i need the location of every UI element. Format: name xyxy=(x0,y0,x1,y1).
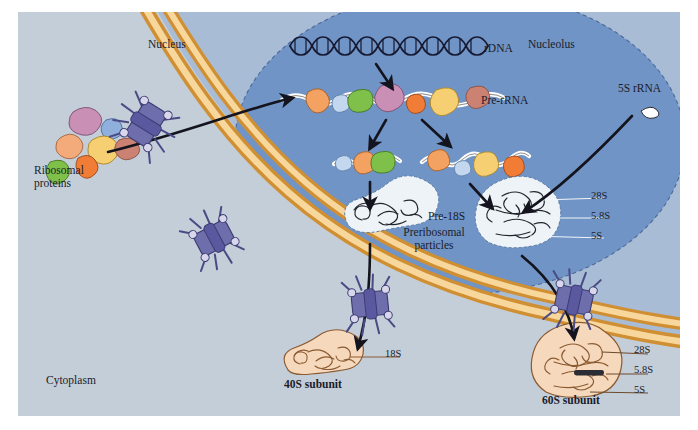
label-60s-subunit: 60S subunit xyxy=(542,394,600,407)
rrna-factor-blue-1 xyxy=(332,95,350,113)
label-preribosomal-line1: Preribosomal xyxy=(403,226,464,238)
label-cyto-5-8s: 5.8S xyxy=(634,364,653,376)
rrna-factor-green-1 xyxy=(348,89,373,112)
label-cyto-28s: 28S xyxy=(634,344,650,356)
figure-stage: Cytoplasm Nucleus Nucleolus rDNA Pre-rRN… xyxy=(0,0,698,430)
label-ribosomal-proteins-line2: proteins xyxy=(34,177,71,189)
label-nucleolus: Nucleolus xyxy=(528,38,575,51)
rrna-factor-orange-2 xyxy=(406,94,425,113)
label-5s-rrna: 5S rRNA xyxy=(618,82,661,95)
label-preribosomal-particles: Preribosomal particles xyxy=(384,226,484,252)
label-ribosomal-proteins: Ribosomal proteins xyxy=(34,164,124,190)
label-cyto-5s: 5S xyxy=(634,384,645,396)
label-preribosomal-line2: particles xyxy=(415,239,454,251)
ribosome-biogenesis-diagram: Cytoplasm Nucleus Nucleolus rDNA Pre-rRN… xyxy=(18,12,680,416)
label-pre-18s: Pre-18S xyxy=(428,210,465,223)
label-pre-rrna: Pre-rRNA xyxy=(481,94,528,107)
label-18s: 18S xyxy=(385,348,401,360)
protein-blob-peach xyxy=(56,134,83,159)
label-nucleolar-28s: 28S xyxy=(591,190,607,202)
label-cytoplasm: Cytoplasm xyxy=(46,374,96,387)
diagram-canvas xyxy=(18,12,680,416)
label-nucleolar-5-8s: 5.8S xyxy=(591,210,610,222)
label-nucleus: Nucleus xyxy=(148,38,186,51)
label-rdna: rDNA xyxy=(484,42,513,55)
label-nucleolar-5s: 5S xyxy=(591,230,602,242)
protein-blob-pink xyxy=(69,107,102,135)
label-40s-subunit: 40S subunit xyxy=(284,378,342,391)
label-ribosomal-proteins-line1: Ribosomal xyxy=(34,164,84,176)
